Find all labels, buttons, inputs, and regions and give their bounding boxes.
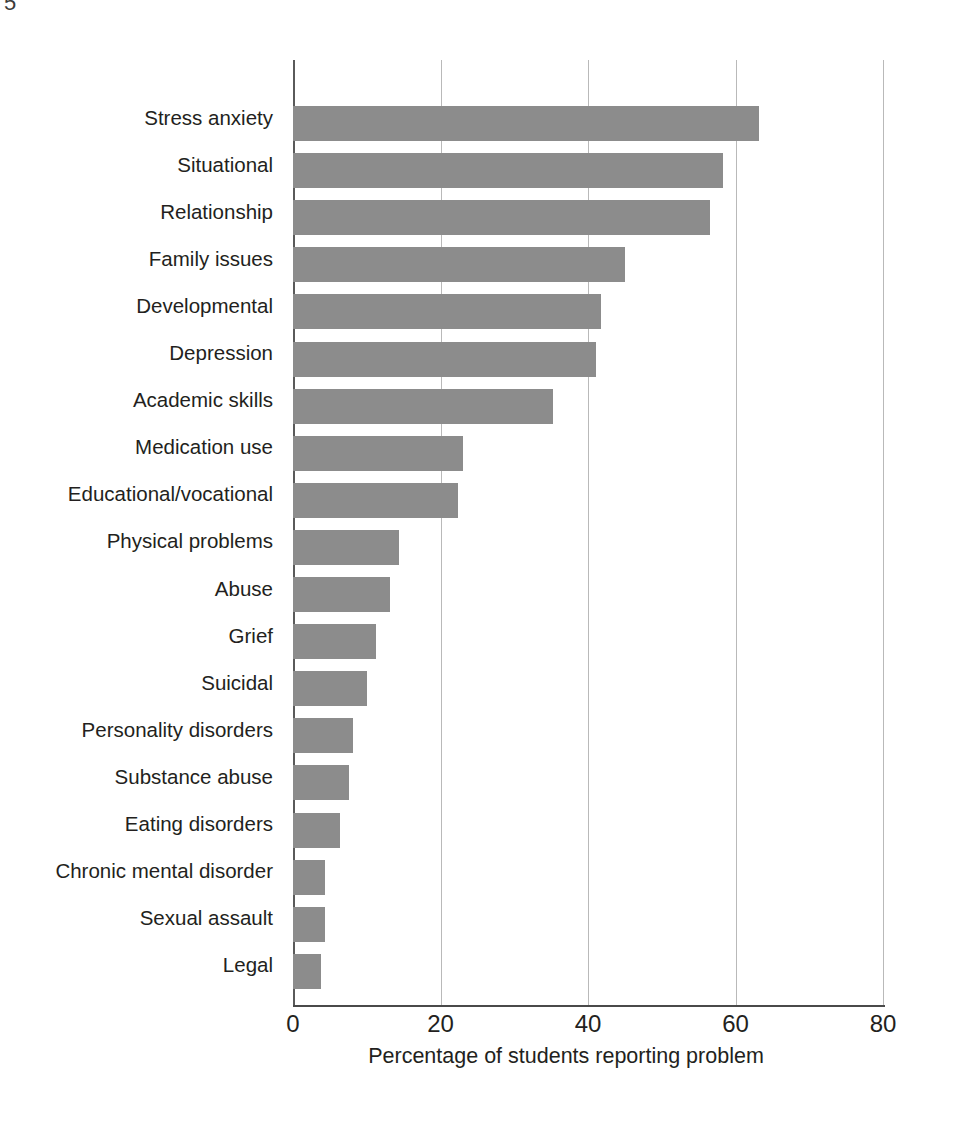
bar-row bbox=[293, 383, 883, 430]
category-label: Suicidal bbox=[0, 673, 283, 694]
category-label: Physical problems bbox=[0, 531, 283, 552]
bar-row bbox=[293, 665, 883, 712]
bar-row bbox=[293, 854, 883, 901]
bar-row bbox=[293, 571, 883, 618]
category-label: Legal bbox=[0, 955, 283, 976]
bar bbox=[293, 954, 321, 989]
bar-row bbox=[293, 241, 883, 288]
gridline-80 bbox=[883, 60, 884, 1005]
bar bbox=[293, 765, 349, 800]
x-tick-label-80: 80 bbox=[843, 1012, 923, 1036]
x-tick-label-0: 0 bbox=[253, 1012, 333, 1036]
bar bbox=[293, 860, 325, 895]
bar bbox=[293, 907, 325, 942]
category-label: Developmental bbox=[0, 296, 283, 317]
x-tick-label-60: 60 bbox=[696, 1012, 776, 1036]
category-label: Situational bbox=[0, 155, 283, 176]
x-tick-label-20: 20 bbox=[401, 1012, 481, 1036]
bar bbox=[293, 718, 353, 753]
bar-chart-figure: 020406080 Stress anxietySituationalRelat… bbox=[0, 0, 956, 1121]
category-label: Abuse bbox=[0, 579, 283, 600]
bar-row bbox=[293, 618, 883, 665]
bar bbox=[293, 200, 710, 235]
category-label: Chronic mental disorder bbox=[0, 861, 283, 882]
bar bbox=[293, 153, 723, 188]
bar bbox=[293, 624, 376, 659]
bar bbox=[293, 577, 390, 612]
bar bbox=[293, 813, 340, 848]
bar-row bbox=[293, 194, 883, 241]
category-label: Relationship bbox=[0, 202, 283, 223]
bar-row bbox=[293, 336, 883, 383]
x-tick-label-40: 40 bbox=[548, 1012, 628, 1036]
bar bbox=[293, 247, 625, 282]
bar bbox=[293, 294, 601, 329]
x-axis-title: Percentage of students reporting problem bbox=[0, 1046, 956, 1068]
category-label: Family issues bbox=[0, 249, 283, 270]
bar-row bbox=[293, 948, 883, 995]
x-axis-line bbox=[293, 1005, 885, 1007]
category-label: Medication use bbox=[0, 437, 283, 458]
bar-row bbox=[293, 477, 883, 524]
bar-row bbox=[293, 524, 883, 571]
bar bbox=[293, 436, 463, 471]
category-label: Substance abuse bbox=[0, 767, 283, 788]
bar bbox=[293, 483, 458, 518]
category-label: Eating disorders bbox=[0, 814, 283, 835]
category-label: Sexual assault bbox=[0, 908, 283, 929]
bar-row bbox=[293, 901, 883, 948]
category-label: Stress anxiety bbox=[0, 108, 283, 129]
bar-row bbox=[293, 807, 883, 854]
bar bbox=[293, 389, 553, 424]
category-label: Depression bbox=[0, 343, 283, 364]
category-label: Grief bbox=[0, 626, 283, 647]
bar bbox=[293, 671, 367, 706]
bar-row bbox=[293, 430, 883, 477]
bar-row bbox=[293, 288, 883, 335]
bar bbox=[293, 342, 596, 377]
bar-row bbox=[293, 712, 883, 759]
bar-row bbox=[293, 147, 883, 194]
category-label: Personality disorders bbox=[0, 720, 283, 741]
bar-row bbox=[293, 759, 883, 806]
bar bbox=[293, 530, 399, 565]
bar bbox=[293, 106, 759, 141]
category-label: Educational/vocational bbox=[0, 484, 283, 505]
plot-area bbox=[293, 60, 883, 1007]
bar-row bbox=[293, 100, 883, 147]
category-label: Academic skills bbox=[0, 390, 283, 411]
